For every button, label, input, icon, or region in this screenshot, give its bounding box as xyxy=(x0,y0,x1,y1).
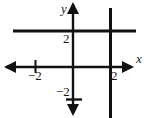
coordinate-graph-figure: y x 2 2 −2 −2 xyxy=(0,0,149,118)
y-axis-top-arrowhead xyxy=(67,2,79,14)
x-axis-label: x xyxy=(136,52,142,65)
tick-label-x-negative-2: −2 xyxy=(28,69,42,82)
y-axis-label: y xyxy=(61,2,67,15)
x-axis-left-arrowhead xyxy=(4,61,16,73)
x-axis-right-arrowhead xyxy=(122,61,134,73)
tick-label-y-negative-2: −2 xyxy=(56,85,70,98)
y-axis-bottom-arrowhead xyxy=(67,104,79,116)
tick-label-x-positive-2: 2 xyxy=(111,69,118,82)
tick-label-y-positive-2: 2 xyxy=(63,32,70,45)
coordinate-plane-svg xyxy=(0,0,149,118)
